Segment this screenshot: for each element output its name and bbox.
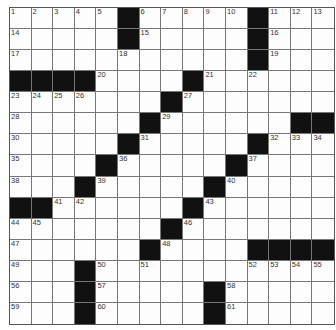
grid-cell[interactable] [226,198,248,219]
grid-cell[interactable]: 16 [269,29,291,50]
grid-cell[interactable] [291,71,313,92]
grid-cell[interactable] [96,240,118,261]
grid-cell[interactable]: 42 [75,198,97,219]
grid-cell[interactable] [291,198,313,219]
grid-cell[interactable] [75,113,97,134]
grid-cell[interactable] [291,155,313,176]
grid-cell[interactable] [118,198,140,219]
grid-cell[interactable]: 61 [226,303,248,324]
grid-cell[interactable] [140,71,162,92]
grid-cell[interactable]: 3 [53,8,75,29]
grid-cell[interactable] [291,92,313,113]
grid-cell[interactable] [161,71,183,92]
grid-cell[interactable] [183,29,205,50]
grid-cell[interactable]: 59 [10,303,32,324]
grid-cell[interactable] [204,29,226,50]
grid-cell[interactable] [226,240,248,261]
grid-cell[interactable] [32,240,54,261]
grid-cell[interactable]: 58 [226,282,248,303]
grid-cell[interactable]: 2 [32,8,54,29]
grid-cell[interactable] [96,113,118,134]
grid-cell[interactable] [140,155,162,176]
grid-cell[interactable] [96,134,118,155]
grid-cell[interactable] [140,50,162,71]
grid-cell[interactable] [183,50,205,71]
grid-cell[interactable]: 41 [53,198,75,219]
grid-cell[interactable]: 10 [226,8,248,29]
grid-cell[interactable] [140,303,162,324]
grid-cell[interactable]: 9 [204,8,226,29]
grid-cell[interactable] [75,219,97,240]
grid-cell[interactable]: 57 [96,282,118,303]
grid-cell[interactable]: 40 [226,177,248,198]
grid-cell[interactable]: 27 [183,92,205,113]
grid-cell[interactable] [312,177,334,198]
grid-cell[interactable] [161,282,183,303]
grid-cell[interactable] [53,261,75,282]
grid-cell[interactable]: 20 [96,71,118,92]
grid-cell[interactable] [183,282,205,303]
grid-cell[interactable]: 35 [10,155,32,176]
grid-cell[interactable] [32,134,54,155]
grid-cell[interactable] [312,282,334,303]
grid-cell[interactable] [248,282,270,303]
grid-cell[interactable] [118,71,140,92]
grid-cell[interactable]: 7 [161,8,183,29]
grid-cell[interactable]: 21 [204,71,226,92]
grid-cell[interactable] [312,198,334,219]
grid-cell[interactable]: 49 [10,261,32,282]
grid-cell[interactable] [32,261,54,282]
grid-cell[interactable] [161,177,183,198]
grid-cell[interactable] [32,50,54,71]
grid-cell[interactable] [312,92,334,113]
grid-cell[interactable] [118,92,140,113]
grid-cell[interactable] [118,303,140,324]
grid-cell[interactable]: 4 [75,8,97,29]
grid-cell[interactable]: 32 [269,134,291,155]
grid-cell[interactable] [226,219,248,240]
grid-cell[interactable]: 47 [10,240,32,261]
grid-cell[interactable] [32,113,54,134]
grid-cell[interactable] [32,155,54,176]
grid-cell[interactable] [53,50,75,71]
grid-cell[interactable]: 25 [53,92,75,113]
grid-cell[interactable]: 34 [312,134,334,155]
grid-cell[interactable] [161,303,183,324]
grid-cell[interactable]: 31 [140,134,162,155]
grid-cell[interactable] [312,303,334,324]
grid-cell[interactable] [183,240,205,261]
grid-cell[interactable]: 17 [10,50,32,71]
grid-cell[interactable] [53,303,75,324]
grid-cell[interactable] [291,177,313,198]
grid-cell[interactable] [226,92,248,113]
grid-cell[interactable] [53,177,75,198]
grid-cell[interactable] [312,71,334,92]
grid-cell[interactable] [312,155,334,176]
grid-cell[interactable] [204,113,226,134]
grid-cell[interactable] [161,261,183,282]
grid-cell[interactable] [226,71,248,92]
grid-cell[interactable]: 51 [140,261,162,282]
grid-cell[interactable] [140,177,162,198]
grid-cell[interactable] [204,155,226,176]
grid-cell[interactable] [291,50,313,71]
grid-cell[interactable] [32,282,54,303]
grid-cell[interactable]: 46 [183,219,205,240]
grid-cell[interactable]: 48 [161,240,183,261]
grid-cell[interactable] [53,113,75,134]
grid-cell[interactable] [291,29,313,50]
grid-cell[interactable]: 52 [248,261,270,282]
grid-cell[interactable] [75,240,97,261]
grid-cell[interactable] [248,219,270,240]
grid-cell[interactable]: 38 [10,177,32,198]
grid-cell[interactable]: 55 [312,261,334,282]
grid-cell[interactable] [269,113,291,134]
grid-cell[interactable]: 5 [96,8,118,29]
grid-cell[interactable] [118,261,140,282]
grid-cell[interactable] [204,219,226,240]
grid-cell[interactable]: 30 [10,134,32,155]
grid-cell[interactable] [96,219,118,240]
grid-cell[interactable] [248,198,270,219]
grid-cell[interactable] [226,261,248,282]
grid-cell[interactable] [118,219,140,240]
